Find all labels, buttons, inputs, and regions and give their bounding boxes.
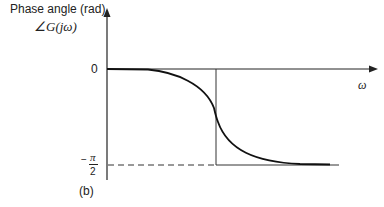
phase-curve: [107, 69, 330, 165]
x-axis-label: ω: [358, 78, 366, 93]
tick-pi: π: [90, 151, 96, 163]
x-axis-arrow-icon: [369, 66, 378, 73]
tick-two: 2: [90, 166, 96, 177]
y-axis-symbol: ∠G(jω): [34, 19, 77, 35]
tick-neg-sign: −: [81, 154, 87, 165]
tick-zero: 0: [91, 62, 98, 76]
y-axis-label: Phase angle (rad): [10, 2, 105, 16]
panel-label: (b): [79, 184, 94, 198]
tick-fraction-bar: [89, 164, 98, 165]
